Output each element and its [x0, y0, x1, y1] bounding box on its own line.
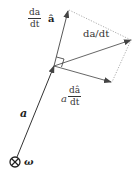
da-dt-arrow: [54, 40, 131, 66]
radial-component-arrow: [54, 11, 68, 66]
right-angle-marker: [57, 57, 65, 67]
tangential-component-arrow: [54, 66, 111, 82]
label-da-dt: da/dt: [83, 29, 109, 39]
label-ahat: â: [48, 14, 54, 24]
label-dadt-fraction: da dt: [28, 8, 41, 29]
label-a-vector: a: [20, 108, 27, 119]
label-dahat-fraction: dâ dt: [68, 86, 81, 107]
label-a-prefix: a: [61, 94, 67, 104]
dotted-line-right: [112, 40, 131, 82]
omega-into-page-icon: [10, 157, 20, 167]
label-omega: ω: [24, 157, 34, 167]
